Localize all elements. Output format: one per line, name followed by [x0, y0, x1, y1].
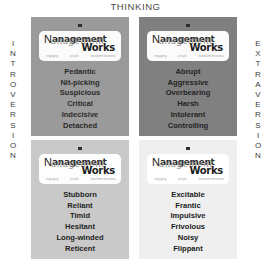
left-axis-label: INTROVERSION — [2, 40, 24, 160]
left-axis-letter-1: N — [10, 50, 16, 58]
logo-word-bottom: Works — [189, 43, 223, 53]
trait-word: Reliant — [31, 201, 129, 212]
trait-word: Suspicious — [31, 88, 129, 99]
logo-tagline: engaging people transform business — [46, 177, 116, 181]
left-axis-letter-8: S — [10, 122, 15, 130]
left-axis-letter-6: E — [10, 101, 15, 109]
square-dash-marker-icon — [186, 24, 190, 27]
trait-list-thinking-extraversion: AbruptAggressiveOverbearingHarshIntolera… — [139, 67, 237, 131]
logo-tagline-left: engaging — [154, 177, 166, 181]
logo-tagline-left: engaging — [154, 54, 166, 58]
right-axis-letter-4: A — [255, 81, 260, 89]
logo-tagline-right: transform business — [199, 177, 224, 181]
logo-wordmark: N anagement anagement Works — [152, 156, 224, 176]
quadrant-thinking-introversion: N anagement anagement Works engaging peo… — [31, 17, 129, 136]
quadrant-feeling-extraversion: N anagement anagement Works engaging peo… — [139, 140, 237, 259]
management-works-logo: N anagement anagement Works engaging peo… — [147, 154, 229, 184]
square-dash-marker-icon — [78, 24, 82, 27]
left-axis-letter-2: T — [11, 60, 16, 68]
trait-word: Frantic — [139, 201, 237, 212]
trait-word: Long-winded — [31, 233, 129, 244]
logo-tagline-left: engaging — [46, 54, 58, 58]
right-axis-letter-5: V — [255, 91, 260, 99]
logo-tagline-left: engaging — [46, 177, 58, 181]
logo-tagline-mid: people — [178, 54, 187, 58]
right-axis-letter-9: I — [257, 132, 259, 140]
trait-word: Frivolous — [139, 222, 237, 233]
trait-word: Harsh — [139, 99, 237, 110]
logo-tagline-mid: people — [178, 177, 187, 181]
right-axis-letter-7: R — [255, 111, 261, 119]
trait-word: Detached — [31, 121, 129, 132]
trait-word: Noisy — [139, 233, 237, 244]
logo-tagline-mid: people — [70, 54, 79, 58]
left-axis-letter-5: V — [10, 91, 15, 99]
right-axis-letter-11: N — [255, 152, 261, 160]
logo-tagline-right: transform business — [91, 177, 116, 181]
quadrant-diagram: THINKING INTROVERSION EXTRAVERSION N ana… — [0, 0, 271, 259]
trait-word: Nit-picking — [31, 78, 129, 89]
quadrant-feeling-introversion: N anagement anagement Works engaging peo… — [31, 140, 129, 259]
management-works-logo: N anagement anagement Works engaging peo… — [39, 154, 121, 184]
square-dash-marker-icon — [78, 147, 82, 150]
logo-tagline: engaging people transform business — [154, 54, 224, 58]
management-works-logo: N anagement anagement Works engaging peo… — [147, 31, 229, 61]
trait-word: Flippant — [139, 244, 237, 255]
trait-word: Indecisive — [31, 110, 129, 121]
trait-word: Impulsive — [139, 211, 237, 222]
trait-word: Controlling — [139, 121, 237, 132]
left-axis-letter-3: R — [10, 71, 16, 79]
logo-wordmark: N anagement anagement Works — [152, 33, 224, 53]
logo-tagline: engaging people transform business — [154, 177, 224, 181]
quadrant-thinking-extraversion: N anagement anagement Works engaging peo… — [139, 17, 237, 136]
trait-word: Overbearing — [139, 88, 237, 99]
right-axis-letter-8: S — [255, 122, 260, 130]
trait-word: Timid — [31, 211, 129, 222]
right-axis-letter-6: E — [255, 101, 260, 109]
trait-word: Intolerant — [139, 110, 237, 121]
trait-word: Stubborn — [31, 190, 129, 201]
trait-word: Pedantic — [31, 67, 129, 78]
logo-tagline-right: transform business — [199, 54, 224, 58]
right-axis-letter-10: O — [255, 142, 261, 150]
logo-tagline-mid: people — [70, 177, 79, 181]
trait-word: Excitable — [139, 190, 237, 201]
left-axis-letter-11: N — [10, 152, 16, 160]
right-axis-letter-1: X — [255, 50, 260, 58]
right-axis-letter-3: R — [255, 71, 261, 79]
left-axis-letter-9: I — [12, 132, 14, 140]
trait-word: Hesitant — [31, 222, 129, 233]
left-axis-letter-0: I — [12, 40, 14, 48]
right-axis-label: EXTRAVERSION — [247, 40, 269, 160]
logo-wordmark: N anagement anagement Works — [44, 156, 116, 176]
right-axis-letter-2: T — [256, 60, 261, 68]
management-works-logo: N anagement anagement Works engaging peo… — [39, 31, 121, 61]
logo-word-bottom: Works — [81, 166, 115, 176]
trait-word: Reticent — [31, 244, 129, 255]
trait-list-thinking-introversion: PedanticNit-pickingSuspiciousCriticalInd… — [31, 67, 129, 131]
left-axis-letter-7: R — [10, 111, 16, 119]
trait-word: Aggressive — [139, 78, 237, 89]
left-axis-letter-10: O — [10, 142, 16, 150]
left-axis-letter-4: O — [10, 81, 16, 89]
square-dash-marker-icon — [186, 147, 190, 150]
logo-word-bottom: Works — [189, 166, 223, 176]
logo-wordmark: N anagement anagement Works — [44, 33, 116, 53]
trait-list-feeling-extraversion: ExcitableFranticImpulsiveFrivolousNoisyF… — [139, 190, 237, 254]
quadrant-grid: N anagement anagement Works engaging peo… — [31, 17, 237, 259]
trait-word: Abrupt — [139, 67, 237, 78]
logo-tagline: engaging people transform business — [46, 54, 116, 58]
trait-word: Critical — [31, 99, 129, 110]
logo-tagline-right: transform business — [91, 54, 116, 58]
logo-word-bottom: Works — [81, 43, 115, 53]
top-axis-label: THINKING — [0, 1, 271, 12]
right-axis-letter-0: E — [255, 40, 260, 48]
trait-list-feeling-introversion: StubbornReliantTimidHesitantLong-windedR… — [31, 190, 129, 254]
